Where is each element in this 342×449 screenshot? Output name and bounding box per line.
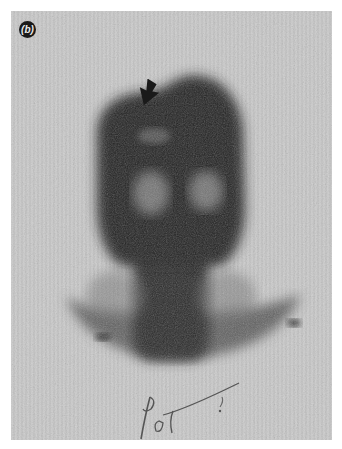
scintigraphy-image bbox=[11, 11, 332, 440]
handwritten-note bbox=[11, 11, 332, 440]
